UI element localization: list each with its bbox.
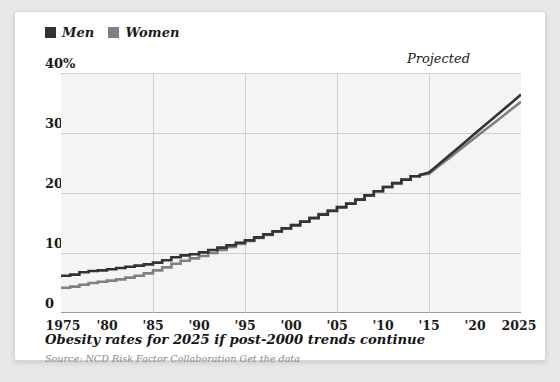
series-line-men — [61, 95, 521, 276]
square-swatch-icon — [108, 27, 119, 38]
x-tick-label-1975: 1975 — [46, 318, 81, 333]
legend-label-women: Women — [125, 25, 179, 40]
x-tick-label-2020: '20 — [464, 318, 485, 333]
chart-svg — [61, 73, 521, 313]
series-layer — [61, 95, 521, 288]
x-tick-label-2005: '05 — [326, 318, 347, 333]
chart-legend: Men Women — [45, 25, 180, 40]
x-tick-label-2025: 2025 — [502, 318, 537, 333]
chart-caption: Obesity rates for 2025 if post-2000 tren… — [45, 332, 425, 347]
y-tick-label-0: 0 — [45, 296, 54, 311]
x-tick-label-1980: '80 — [96, 318, 117, 333]
chart-card: Men Women Projected 40% 30 20 10 0 — [14, 11, 546, 361]
projected-annotation: Projected — [407, 51, 470, 66]
x-tick-label-2010: '10 — [372, 318, 393, 333]
x-tick-label-2015: '15 — [418, 318, 439, 333]
x-tick-label-2000: '00 — [280, 318, 301, 333]
x-tick-label-1985: '85 — [142, 318, 163, 333]
legend-item-men: Men — [45, 25, 94, 40]
x-tick-label-1995: '95 — [234, 318, 255, 333]
series-line-women — [61, 102, 521, 288]
x-tick-label-1990: '90 — [188, 318, 209, 333]
square-swatch-icon — [45, 27, 56, 38]
y-tick-label-40: 40% — [45, 56, 75, 71]
legend-item-women: Women — [108, 25, 179, 40]
chart-source: Source: NCD Risk Factor Collaboration Ge… — [45, 353, 300, 364]
plot-area — [61, 73, 521, 313]
legend-label-men: Men — [62, 25, 94, 40]
